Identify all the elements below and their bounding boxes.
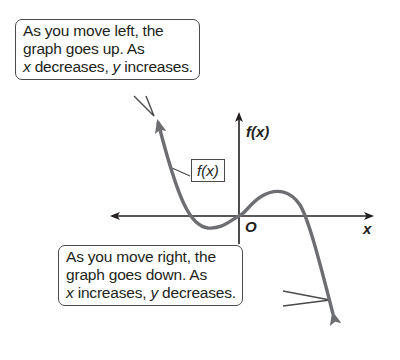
origin-label: O — [245, 218, 257, 235]
top-callout-line2: graph goes up. As — [23, 40, 193, 58]
top-callout: As you move left, the graph goes up. As … — [15, 19, 200, 80]
bottom-callout-line1: As you move right, the — [66, 248, 236, 266]
top-callout-line3: x decreases, y increases. — [23, 58, 193, 76]
bottom-callout-line2: graph goes down. As — [66, 266, 236, 284]
top-callout-line1: As you move left, the — [23, 22, 193, 40]
top-callout-pointer — [134, 96, 154, 116]
curve-label: f(x) — [191, 159, 225, 182]
x-axis-label: x — [363, 220, 371, 237]
y-axis-label: f(x) — [246, 123, 269, 140]
bottom-callout: As you move right, the graph goes down. … — [58, 245, 243, 306]
bottom-callout-line3: x increases, y decreases. — [66, 284, 236, 302]
bottom-callout-pointer — [283, 291, 330, 306]
